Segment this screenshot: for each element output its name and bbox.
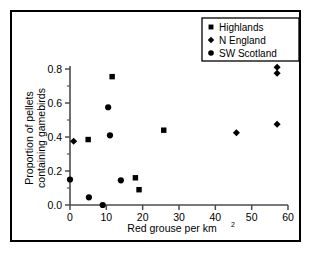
data-point [100, 202, 106, 208]
x-tick-label: 50 [246, 211, 258, 223]
data-point [136, 187, 141, 192]
chart-legend: HighlandsN EnglandSW Scotland [202, 18, 299, 61]
data-point [274, 70, 281, 77]
x-tick-label: 60 [282, 211, 294, 223]
scatter-plot: 0.00.20.40.60.8 0102030405060 HighlandsN… [0, 0, 313, 261]
y-tick-label: 0.2 [47, 165, 62, 177]
x-axis-title-text: Red grouse per km [127, 222, 217, 234]
y-axis [65, 66, 70, 205]
legend-label: N England [219, 35, 266, 46]
data-point [274, 121, 281, 128]
y-tick-label: 0.6 [47, 97, 62, 109]
data-point [118, 177, 124, 183]
data-point [107, 132, 113, 138]
data-point [67, 176, 73, 182]
x-tick-label: 0 [67, 211, 73, 223]
data-point [133, 175, 138, 180]
y-tick-label: 0.8 [47, 63, 62, 75]
y-tick-label: 0.4 [47, 131, 62, 143]
data-point [109, 74, 114, 79]
legend-item[interactable]: SW Scotland [208, 48, 277, 59]
data-point [161, 127, 166, 132]
legend-marker-square [209, 25, 214, 30]
data-point [70, 138, 77, 145]
y-axis-title-line2: containing gamebirds [35, 88, 47, 188]
x-tick-label: 10 [100, 211, 112, 223]
x-axis-title-superscript: 2 [231, 221, 235, 228]
data-point [105, 104, 111, 110]
series-highlands [85, 74, 166, 192]
y-axis-title: Proportion of pellets containing gamebir… [23, 88, 47, 188]
data-point [86, 194, 92, 200]
series-n-england [70, 64, 281, 145]
legend-label: SW Scotland [219, 48, 277, 59]
figure-container: 0.00.20.40.60.8 0102030405060 HighlandsN… [0, 0, 313, 261]
y-axis-title-line1: Proportion of pellets [23, 91, 35, 184]
data-point [85, 137, 90, 142]
legend-marker-circle [208, 50, 214, 56]
series-sw-scotland [67, 104, 124, 208]
y-tick-label: 0.0 [47, 199, 62, 211]
legend-label: Highlands [219, 22, 263, 33]
data-point-layer [67, 64, 281, 208]
data-point [233, 129, 240, 136]
y-tick-labels: 0.00.20.40.60.8 [47, 63, 62, 211]
